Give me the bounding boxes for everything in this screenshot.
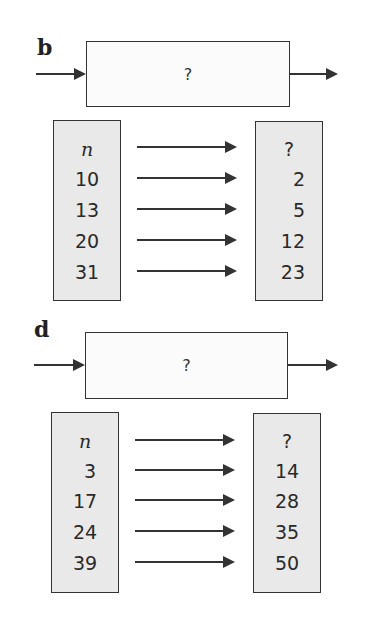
output-header: ? — [256, 138, 322, 160]
section-label-b: b — [37, 36, 52, 58]
input-value: 13 — [54, 199, 120, 221]
input-value: 39 — [52, 552, 118, 574]
input-value: 20 — [54, 230, 120, 252]
output-value: 35 — [254, 521, 320, 543]
input-header: n — [54, 138, 120, 160]
output-arrow-icon — [288, 364, 336, 366]
mapping-arrow-icon — [135, 439, 233, 441]
mapping-arrow-icon — [137, 270, 235, 272]
function-machine: ? — [86, 41, 290, 107]
input-table: n 3 17 24 39 — [51, 412, 119, 593]
mapping-arrow-icon — [137, 146, 235, 148]
mapping-arrow-icon — [137, 177, 235, 179]
mapping-arrow-icon — [135, 499, 233, 501]
input-arrow-icon — [34, 364, 83, 366]
input-value: 24 — [52, 521, 118, 543]
output-value: 50 — [254, 552, 320, 574]
section-label-d: d — [34, 318, 49, 340]
input-value: 3 — [52, 460, 118, 482]
machine-label: ? — [184, 65, 193, 84]
output-value: 28 — [254, 490, 320, 512]
mapping-arrow-icon — [137, 208, 235, 210]
input-value: 17 — [52, 490, 118, 512]
output-value: 2 — [256, 168, 322, 190]
input-value: 10 — [54, 168, 120, 190]
output-value: 23 — [256, 261, 322, 283]
input-header: n — [52, 430, 118, 452]
mapping-arrow-icon — [135, 469, 233, 471]
machine-label: ? — [182, 356, 191, 375]
output-value: 12 — [256, 230, 322, 252]
mapping-arrow-icon — [135, 561, 233, 563]
mapping-arrow-icon — [135, 530, 233, 532]
input-table: n 10 13 20 31 — [53, 120, 121, 301]
input-arrow-icon — [36, 73, 84, 75]
output-value: 14 — [254, 460, 320, 482]
function-machine: ? — [85, 332, 288, 399]
output-table: ? 2 5 12 23 — [255, 121, 323, 301]
output-header: ? — [254, 430, 320, 452]
mapping-arrow-icon — [137, 239, 235, 241]
output-value: 5 — [256, 199, 322, 221]
output-table: ? 14 28 35 50 — [253, 413, 321, 593]
input-value: 31 — [54, 261, 120, 283]
output-arrow-icon — [290, 73, 336, 75]
